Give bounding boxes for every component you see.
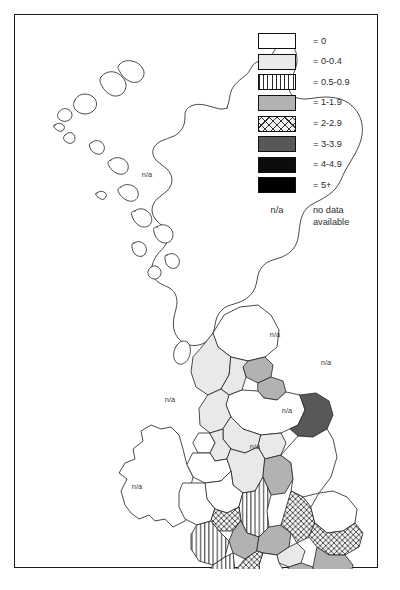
na-label-buckinghamshire: n/a bbox=[250, 442, 261, 451]
legend-item-5: = 3-3.9 bbox=[258, 134, 376, 155]
legend-item-na: n/a no data available bbox=[258, 205, 376, 229]
legend-item-2: = 0.5-0.9 bbox=[258, 72, 376, 93]
legend-swatch-2 bbox=[258, 74, 296, 90]
map-legend: = 0 = 0-0.4 = 0.5-0.9 = 1-1.9 = 2-2.9 = bbox=[258, 31, 376, 228]
legend-na-key: n/a bbox=[258, 205, 296, 215]
legend-label-5: = 3-3.9 bbox=[313, 140, 342, 149]
legend-label-4: = 2-2.9 bbox=[313, 119, 342, 128]
legend-label-0: = 0 bbox=[313, 37, 326, 46]
legend-item-1: = 0-0.4 bbox=[258, 52, 376, 73]
na-label-scotland: n/a bbox=[142, 170, 153, 179]
figure-page: n/a n/a n/a n/a n/a n/a n/a = 0 = 0-0.4 bbox=[0, 0, 400, 590]
na-label-surrey: n/a bbox=[282, 406, 293, 415]
legend-item-6: = 4-4.9 bbox=[258, 155, 376, 176]
legend-item-7: = 5+ bbox=[258, 175, 376, 196]
legend-na-line1: no data bbox=[313, 205, 349, 217]
na-label-cornwall: n/a bbox=[132, 482, 143, 491]
legend-swatch-6 bbox=[258, 157, 296, 173]
na-label-wales: n/a bbox=[165, 395, 176, 404]
legend-swatch-1 bbox=[258, 54, 296, 70]
legend-swatch-5 bbox=[258, 136, 296, 152]
na-label-north-yorkshire: n/a bbox=[270, 330, 281, 339]
legend-na-text: no data available bbox=[313, 205, 349, 229]
legend-label-3: = 1-1.9 bbox=[313, 98, 342, 107]
figure-frame: n/a n/a n/a n/a n/a n/a n/a = 0 = 0-0.4 bbox=[14, 14, 378, 568]
legend-swatch-7 bbox=[258, 177, 296, 193]
legend-item-0: = 0 bbox=[258, 31, 376, 52]
legend-label-1: = 0-0.4 bbox=[313, 57, 342, 66]
legend-label-2: = 0.5-0.9 bbox=[313, 78, 350, 87]
legend-swatch-3 bbox=[258, 95, 296, 111]
legend-item-3: = 1-1.9 bbox=[258, 93, 376, 114]
legend-swatch-4 bbox=[258, 116, 296, 132]
na-label-norfolk: n/a bbox=[321, 358, 332, 367]
legend-na-line2: available bbox=[313, 217, 349, 229]
legend-swatch-0 bbox=[258, 33, 296, 49]
legend-label-6: = 4-4.9 bbox=[313, 160, 342, 169]
legend-item-4: = 2-2.9 bbox=[258, 113, 376, 134]
legend-label-7: = 5+ bbox=[313, 181, 331, 190]
